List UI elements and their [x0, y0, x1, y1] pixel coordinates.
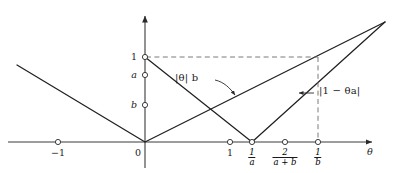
y-tick-label-one: 1 [131, 52, 137, 62]
tick-label-minus-one: −1 [51, 148, 65, 158]
tick-label-one-over-b-numerator: 1 [314, 148, 321, 157]
tick-marker-one [227, 139, 232, 144]
x-axis-label-theta: θ [367, 147, 373, 157]
tick-marker-y-b [142, 102, 147, 107]
tick-label-one-over-b: 1 b [314, 147, 321, 167]
tick-marker-y-one [142, 54, 147, 59]
figure-container: −1 0 1 1 a 2 a + b 1 b θ 1 a b |θ| b |1 … [0, 0, 402, 173]
tick-marker-minus-one [55, 139, 60, 144]
abs-theta-b-curve [17, 22, 385, 142]
theta-b-annotation-arrow [215, 80, 235, 95]
tick-label-one-over-a: 1 a [248, 147, 255, 167]
tick-label-one-over-b-denominator: b [314, 157, 321, 167]
tick-marker-one-over-a [249, 139, 254, 144]
tick-label-two-over-a-plus-b-numerator: 2 [272, 148, 297, 157]
tick-marker-y-a [142, 72, 147, 77]
tick-label-one-over-a-numerator: 1 [248, 148, 255, 157]
tick-marker-one-over-b [315, 139, 320, 144]
tick-label-one: 1 [227, 148, 233, 158]
annotation-one-minus-theta-a: |1 − θa| [319, 86, 360, 96]
annotation-theta-b: |θ| b [175, 73, 198, 83]
tick-label-two-over-a-plus-b: 2 a + b [272, 147, 297, 167]
tick-label-zero: 0 [135, 148, 141, 158]
y-tick-label-b: b [131, 100, 137, 110]
tick-label-two-over-a-plus-b-denominator: a + b [272, 157, 297, 167]
tick-marker-two-over-a-plus-b [282, 139, 287, 144]
y-tick-label-a: a [131, 70, 137, 80]
tick-label-one-over-a-denominator: a [248, 157, 255, 167]
